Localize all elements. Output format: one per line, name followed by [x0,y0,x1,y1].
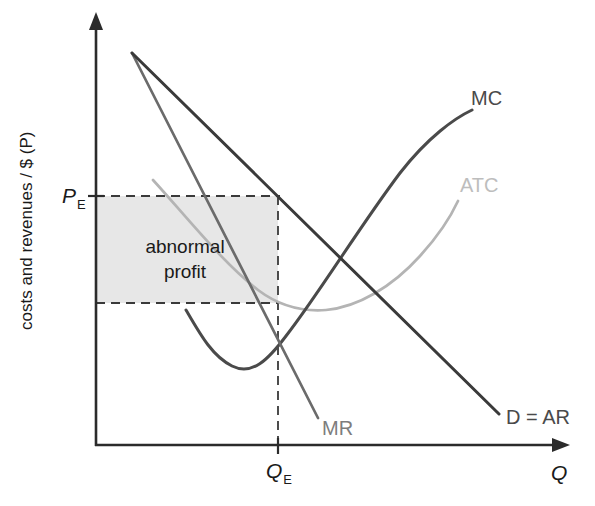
price-axis-marker: PE [62,184,86,212]
demand-ar-curve-label: D = AR [506,406,570,428]
atc-curve-label: ATC [460,174,499,196]
chart-canvas: costs and revenues / $ (P) PE QE Q abnor… [0,0,595,506]
mc-curve-label: MC [471,87,502,109]
abnormal-profit-label-line2: profit [164,261,207,282]
mr-curve-label: MR [322,417,353,439]
y-axis-label: costs and revenues / $ (P) [17,132,36,330]
abnormal-profit-label-line1: abnormal [145,236,224,257]
x-axis-arrow-icon [552,438,570,452]
y-axis-arrow-icon [89,12,103,30]
x-axis-label: Q [551,461,567,484]
economics-diagram: costs and revenues / $ (P) PE QE Q abnor… [0,0,595,506]
quantity-axis-marker: QE [266,459,292,487]
